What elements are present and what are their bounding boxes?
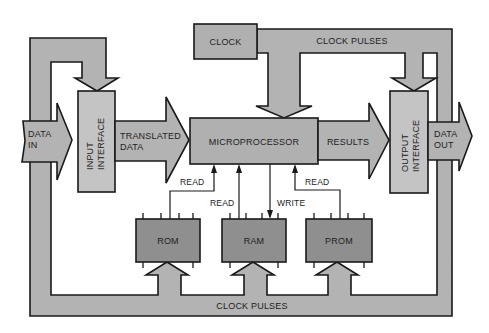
- microprocessor-block-diagram: CLOCK CLOCK PULSES CLOCK PULSES DATA IN …: [0, 0, 489, 333]
- clock-label: CLOCK: [209, 37, 241, 47]
- ram-label: RAM: [244, 236, 265, 246]
- data-out-label-line1: DATA: [434, 129, 457, 139]
- translated-data-label-line1: TRANSLATED: [120, 131, 181, 141]
- data-out-label-line2: OUT: [434, 140, 454, 150]
- data-in-label-line1: DATA: [28, 129, 51, 139]
- translated-data-label-line2: DATA: [120, 142, 143, 152]
- input-interface-label-line2: INTERFACE: [96, 118, 106, 170]
- output-interface-label-line2: INTERFACE: [411, 120, 421, 172]
- input-interface-label-line1: INPUT: [85, 142, 95, 170]
- prom-read-label: READ: [305, 177, 329, 187]
- rom-label: ROM: [157, 236, 179, 246]
- rom-read-label: READ: [180, 177, 204, 187]
- output-interface-label-line1: OUTPUT: [400, 134, 410, 172]
- microprocessor-label: MICROPROCESSOR: [209, 137, 300, 147]
- clock-pulses-top-label: CLOCK PULSES: [316, 36, 387, 46]
- prom-label: PROM: [325, 236, 353, 246]
- ram-write-label: WRITE: [277, 198, 306, 208]
- data-in-label-line2: IN: [28, 140, 37, 150]
- prom-read-signal: [292, 164, 340, 219]
- results-label: RESULTS: [327, 137, 369, 147]
- rom-read-signal: [170, 164, 217, 219]
- ram-read-signal: [236, 164, 242, 219]
- ram-write-signal: [267, 164, 273, 219]
- clock-pulses-bottom-label: CLOCK PULSES: [216, 301, 287, 311]
- ram-read-label: READ: [210, 198, 234, 208]
